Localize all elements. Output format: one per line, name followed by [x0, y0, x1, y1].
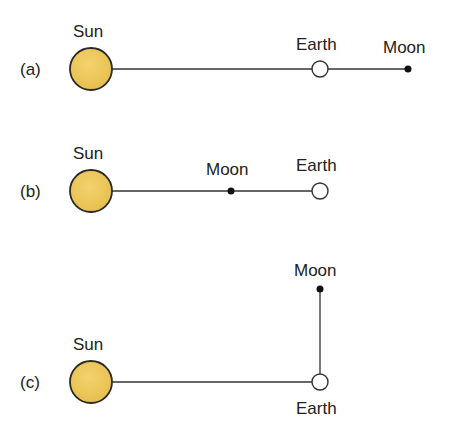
- sun-label: Sun: [73, 22, 103, 41]
- earth-icon: [312, 61, 328, 77]
- moon-icon: [405, 66, 412, 73]
- sun-icon: [70, 170, 112, 212]
- panel-a: (a) Sun Earth Moon: [20, 22, 426, 90]
- earth-icon: [312, 374, 328, 390]
- moon-icon: [317, 286, 324, 293]
- earth-icon: [312, 183, 328, 199]
- sun-label: Sun: [73, 144, 103, 163]
- earth-label: Earth: [296, 35, 337, 54]
- panel-label: (a): [20, 60, 41, 79]
- sun-label: Sun: [73, 335, 103, 354]
- moon-label: Moon: [206, 160, 249, 179]
- earth-label: Earth: [296, 156, 337, 175]
- sun-icon: [70, 361, 112, 403]
- earth-label: Earth: [296, 399, 337, 418]
- moon-label: Moon: [294, 261, 337, 280]
- panel-label: (b): [20, 182, 41, 201]
- panel-label: (c): [20, 373, 40, 392]
- panel-b: (b) Sun Moon Earth: [20, 144, 337, 212]
- panel-c: (c) Sun Moon Earth: [20, 261, 337, 418]
- sun-earth-moon-diagram: (a) Sun Earth Moon (b) Sun Moon Earth (c…: [0, 0, 456, 434]
- moon-icon: [228, 188, 235, 195]
- sun-icon: [70, 48, 112, 90]
- moon-label: Moon: [383, 38, 426, 57]
